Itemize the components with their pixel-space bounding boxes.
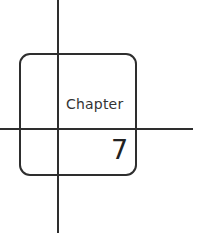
horizontal-crosshair-line [0, 128, 193, 130]
chapter-label: Chapter [66, 96, 123, 112]
chapter-number: 7 [111, 134, 128, 165]
